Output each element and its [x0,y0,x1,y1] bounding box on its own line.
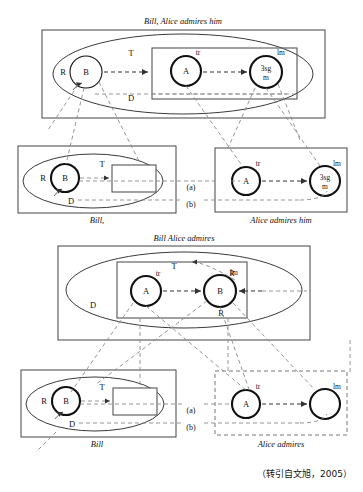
upper-corr-1 [48,85,78,130]
upper-label-b: (b) [186,200,196,209]
lower-right-node-a-tag-tr: tr [256,382,261,391]
upper-left-empty-rect [112,165,156,192]
upper-label-a: (a) [187,183,196,192]
upper-left-node-b-label: B [62,173,68,183]
upper-left-region-label-d: D [68,196,74,206]
upper-node-3sgm-label-line1: 3sg [261,64,272,73]
lower-node-a-tag-tr: tr [156,269,161,278]
lower-left-region-label-t: T [99,382,105,392]
lower-right-caption: Alice admires [257,439,305,449]
figure-canvas: Bill, Alice admires him B R A tr 3sg m l… [0,0,363,492]
lower-panel-title: Bill Alice admires [154,233,216,243]
upper-right-node-a-label: A [243,176,250,186]
upper-node-b-tag-r: R [60,67,66,77]
lower-right-node-a-label: A [243,399,250,409]
diagram-svg: Bill, Alice admires him B R A tr 3sg m l… [0,0,363,492]
lower-corr-8 [36,432,56,452]
lower-node-b-label: B [217,286,223,296]
upper-left-region-label-t: T [99,159,105,169]
lower-left-region-label-d: D [69,419,75,429]
lower-corr-1 [71,303,133,392]
upper-region-label-t: T [128,48,134,58]
upper-right-caption: Alice admires him [249,215,312,225]
lower-region-label-d: D [90,300,96,310]
upper-node-a-label: A [183,66,190,76]
lower-region-label-t: T [171,261,177,271]
upper-right-node-3sgm-label-line1: 3sg [320,173,331,182]
upper-node-3sgm-label-line2: m [263,73,269,82]
upper-right-node-3sgm-tag-lm: lm [333,159,341,168]
lower-base-ellipse [66,252,302,328]
lower-right-node-lm-tag: lm [333,382,341,391]
upper-node-b-label: B [83,67,89,77]
upper-left-node-b-tag-r: R [40,173,46,183]
lower-main-box [58,246,310,340]
lower-left-empty-rect [113,388,157,415]
citation-text: （转引自文旭，2005） [257,468,352,479]
lower-left-node-b-label: B [63,396,69,406]
upper-right-node-a-tag-tr: tr [256,159,261,168]
upper-right-node-3sgm-label-line2: m [322,182,328,191]
upper-panel-title: Bill, Alice admires him [144,16,222,26]
lower-node-b-tag-lm-text: lm [230,268,238,277]
lower-corr-2 [146,306,246,390]
lower-left-caption: Bill [91,439,104,449]
upper-corr-5 [266,88,320,166]
lower-left-node-b-tag-r: R [41,396,47,406]
lower-label-a: (a) [187,406,196,415]
lower-corr-3 [220,307,250,392]
lower-corr-4 [233,303,315,390]
upper-left-caption: Bill, [90,215,104,225]
lower-right-node-lm-empty [310,389,340,419]
lower-label-b: (b) [186,423,196,432]
lower-node-a-label: A [143,286,150,296]
upper-region-label-d: D [128,93,134,103]
upper-node-3sgm-tag-lm: lm [277,48,285,57]
upper-node-a-tag-tr: tr [196,48,201,57]
